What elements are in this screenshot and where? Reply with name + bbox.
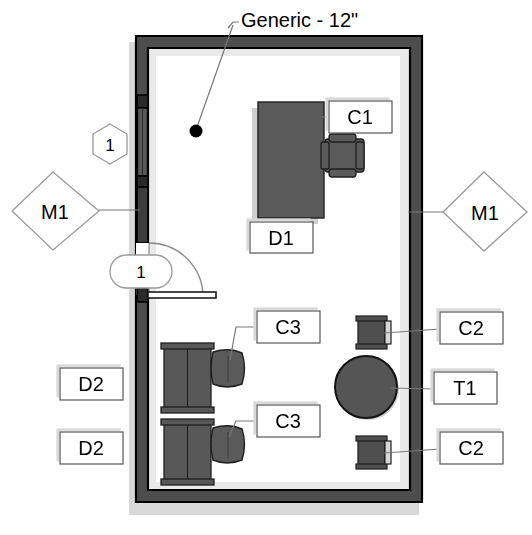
label-c2-upper-text: C2 (458, 317, 484, 339)
label-t1[interactable]: T1 (434, 372, 497, 404)
label-c2-lower[interactable]: C2 (440, 432, 503, 464)
label-d2-upper[interactable]: D2 (60, 368, 123, 400)
label-d1-text: D1 (268, 227, 294, 249)
oval-tag-1-text: 1 (136, 263, 145, 282)
label-d1[interactable]: D1 (250, 222, 313, 253)
desk-d2-lower (161, 419, 214, 485)
label-c2-lower-text: C2 (458, 437, 484, 459)
chair-c1 (321, 134, 364, 177)
label-d2-upper-text: D2 (78, 373, 104, 395)
label-t1-text: T1 (453, 377, 476, 399)
label-c2-upper[interactable]: C2 (440, 312, 503, 344)
label-c1-text: C1 (347, 106, 373, 128)
label-d2-lower[interactable]: D2 (60, 432, 123, 464)
label-c3-upper-text: C3 (275, 316, 301, 338)
label-c1[interactable]: C1 (329, 101, 392, 133)
door-leaf (148, 292, 216, 298)
chair-c3-lower (211, 426, 245, 463)
label-d2-lower-text: D2 (78, 437, 104, 459)
drawing-title: Generic - 12" (241, 9, 358, 31)
desk-d1 (252, 102, 324, 224)
floor-plan-canvas: Generic - 12" 1 1 M1 M1 C1 D1 C3 C3 C2 (0, 0, 532, 535)
hexagon-tag-1-text: 1 (105, 136, 114, 155)
wall-type-marker-dot (190, 125, 203, 138)
label-c3-lower-text: C3 (275, 410, 301, 432)
floor-plan-svg: Generic - 12" 1 1 M1 M1 C1 D1 C3 C3 C2 (0, 0, 532, 535)
diamond-tag-m1-left-text: M1 (41, 201, 69, 223)
label-c3-upper[interactable]: C3 (257, 311, 320, 343)
chair-c3-upper (211, 350, 245, 387)
diamond-tag-m1-right-text: M1 (471, 202, 499, 224)
table-t1 (335, 356, 399, 420)
label-c3-lower[interactable]: C3 (257, 405, 320, 437)
desk-d2-upper (161, 343, 214, 413)
oval-tag-1[interactable]: 1 (110, 255, 172, 288)
